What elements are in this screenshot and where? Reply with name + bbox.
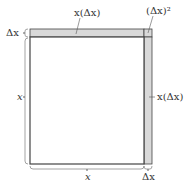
- label-bottom-dx: Δx: [142, 171, 155, 182]
- label-corner: (Δx)²: [146, 5, 171, 16]
- label-right-strip: x(Δx): [157, 91, 183, 102]
- left-brace-x: [23, 38, 28, 164]
- top-strip: [30, 29, 144, 37]
- label-left-x: x: [17, 91, 23, 102]
- label-left-dx: Δx: [6, 27, 19, 38]
- label-bottom-x: x: [85, 171, 91, 182]
- main-square: [30, 37, 144, 164]
- label-top-strip: x(Δx): [74, 7, 100, 18]
- right-strip: [144, 37, 152, 164]
- left-brace-dx: [23, 29, 28, 37]
- square-diagram: x(Δx) (Δx)² x(Δx) Δx x x Δx: [0, 0, 193, 185]
